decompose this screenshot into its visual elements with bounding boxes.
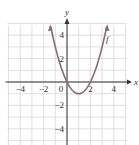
curve-arrow-right-icon — [105, 24, 110, 31]
y-tick-label: −4 — [54, 124, 64, 134]
curve-arrow-left-icon — [48, 24, 53, 31]
function-graph: xy−4−202442−2−4f — [0, 0, 139, 145]
y-tick-label: −2 — [54, 100, 64, 110]
x-axis-arrow-icon — [127, 80, 132, 85]
y-tick-label: 2 — [60, 54, 65, 64]
axes — [6, 18, 133, 145]
x-tick-label: −4 — [15, 84, 25, 94]
y-tick-label: 4 — [60, 30, 65, 40]
x-tick-label: 0 — [59, 84, 64, 94]
x-tick-label: 4 — [112, 84, 117, 94]
y-axis-arrow-icon — [65, 18, 70, 24]
x-tick-label: 2 — [88, 84, 93, 94]
y-axis-label: y — [64, 7, 69, 17]
x-axis-label: x — [133, 77, 138, 87]
x-tick-label: −2 — [39, 84, 49, 94]
